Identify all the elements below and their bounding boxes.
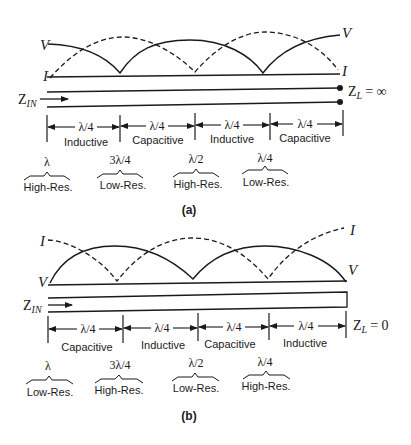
v-label-left-a: V bbox=[40, 37, 51, 53]
figure-a: V I V I ZIN ZL= ∞ bbox=[18, 25, 387, 217]
i-label-right-b: I bbox=[349, 222, 356, 238]
resonance-length-a-4: λ/4 bbox=[257, 151, 272, 165]
segment-type-b-4: Inductive bbox=[283, 337, 327, 349]
figure-b: I V I V ZIN ZL= 0 bbox=[23, 222, 389, 423]
zl-label-b: ZL= 0 bbox=[353, 318, 389, 335]
diagram-canvas: V I V I ZIN ZL= ∞ bbox=[0, 0, 411, 445]
caption-a: (a) bbox=[182, 203, 197, 217]
segment-type-b-3: Capacitive bbox=[204, 338, 255, 350]
resonance-length-a-1: λ bbox=[44, 155, 50, 169]
voltage-curve-b bbox=[50, 246, 346, 283]
reference-line-b bbox=[48, 281, 347, 285]
resonance-type-a-2: Low-Res. bbox=[100, 179, 146, 191]
v-label-right-b: V bbox=[348, 262, 359, 278]
v-label-left-b: V bbox=[38, 274, 49, 290]
resonance-type-a-3: High-Res. bbox=[174, 178, 223, 190]
resonance-type-b-3: Low-Res. bbox=[173, 382, 219, 394]
resonance-length-a-2: 3λ/4 bbox=[109, 153, 130, 167]
resonance-type-b-1: Low-Res. bbox=[27, 386, 73, 398]
i-label-right-a: I bbox=[341, 63, 348, 79]
zin-label-b: ZIN bbox=[23, 298, 72, 315]
resonance-length-b-3: λ/2 bbox=[188, 356, 203, 370]
open-terminal-dot-bottom bbox=[337, 99, 343, 105]
reference-line-a bbox=[47, 74, 340, 77]
segment-length-a-2: λ/4 bbox=[149, 119, 164, 133]
segment-length-b-1: λ/4 bbox=[80, 322, 95, 336]
resonance-length-b-4: λ/4 bbox=[257, 355, 272, 369]
segment-type-a-3: Inductive bbox=[210, 133, 254, 145]
segment-type-a-1: Inductive bbox=[64, 136, 108, 148]
segment-length-a-4: λ/4 bbox=[297, 117, 312, 131]
voltage-curve-a bbox=[48, 35, 340, 73]
segment-length-b-2: λ/4 bbox=[154, 321, 169, 335]
i-label-left-a: I bbox=[42, 68, 49, 84]
segment-type-a-2: Capacitive bbox=[132, 134, 183, 146]
resonance-length-a-3: λ/2 bbox=[188, 152, 203, 166]
shorted-line-b bbox=[48, 292, 347, 312]
open-terminal-dot-top bbox=[337, 85, 343, 91]
svg-text:ZIN: ZIN bbox=[18, 92, 38, 109]
resonance-type-b-4: High-Res. bbox=[242, 380, 291, 392]
zl-label-a: ZL= ∞ bbox=[348, 84, 387, 101]
segment-length-b-4: λ/4 bbox=[298, 319, 313, 333]
segment-length-b-3: λ/4 bbox=[226, 320, 241, 334]
resonance-length-b-2: 3λ/4 bbox=[109, 358, 130, 372]
segment-length-a-1: λ/4 bbox=[78, 120, 93, 134]
current-curve-b bbox=[48, 228, 344, 281]
resonance-length-b-1: λ bbox=[45, 359, 51, 373]
segment-length-a-3: λ/4 bbox=[224, 118, 239, 132]
svg-text:ZIN: ZIN bbox=[23, 298, 43, 315]
current-curve-a bbox=[50, 32, 338, 78]
caption-b: (b) bbox=[181, 409, 196, 423]
resonance-type-b-2: High-Res. bbox=[95, 384, 144, 396]
resonance-type-a-4: Low-Res. bbox=[243, 176, 289, 188]
segment-type-b-2: Inductive bbox=[141, 339, 185, 351]
segment-type-b-1: Capacitive bbox=[61, 341, 112, 353]
line-conductor-top-a bbox=[47, 88, 340, 92]
i-label-left-b: I bbox=[39, 233, 46, 249]
segment-type-a-4: Capacitive bbox=[279, 132, 330, 144]
resonance-type-a-1: High-Res. bbox=[24, 181, 73, 193]
v-label-right-a: V bbox=[342, 25, 353, 41]
line-conductor-bottom-a bbox=[47, 102, 340, 107]
